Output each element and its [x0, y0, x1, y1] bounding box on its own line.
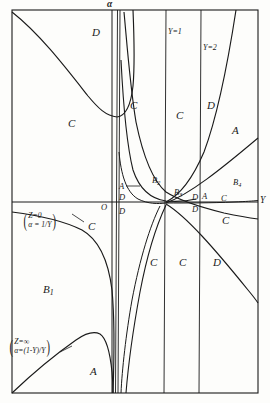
region-a-bottom: A	[90, 366, 97, 377]
region-a-right: A	[202, 192, 207, 201]
region-letter: A	[202, 191, 207, 201]
region-c-lower1: C	[150, 257, 157, 268]
region-letter: C	[150, 256, 157, 268]
region-c-lower2: C	[179, 257, 186, 268]
region-d-right-above: D	[192, 193, 198, 202]
region-letter: C	[130, 99, 137, 111]
region-subscript: 2	[157, 180, 160, 186]
vertical-axis-label: α	[107, 0, 112, 10]
region-letter: C	[179, 256, 186, 268]
region-letter: C	[68, 117, 75, 129]
region-letter: C	[221, 193, 227, 203]
region-letter: D	[207, 99, 215, 111]
phase-diagram-figure: α Y O Y=1 Y=2 ( Z=0 α = 1/Y ) ( Z=∞ α=(1…	[0, 0, 270, 403]
region-letter: D	[192, 192, 198, 202]
region-letter: A	[119, 181, 124, 191]
curve-z-zero-lower-left	[12, 212, 114, 393]
origin-label: O	[101, 203, 107, 212]
region-d-topleft: D	[92, 27, 100, 38]
region-subscript: 4	[238, 182, 241, 188]
region-d-left-below: D	[119, 207, 125, 216]
region-letter: B	[43, 283, 50, 295]
paren-close-icon: )	[53, 213, 56, 228]
region-b4: B4	[233, 178, 241, 188]
isocline-label-y1: Y=1	[168, 28, 182, 36]
paren-open-icon: (	[23, 213, 26, 228]
z-inf-line2: α=(1-Y)/Y	[14, 347, 45, 356]
region-letter: D	[192, 204, 198, 214]
region-c-left: C	[68, 118, 75, 129]
region-letter: A	[90, 365, 97, 377]
region-c-right-axis: C	[221, 194, 227, 203]
region-b1: B1	[43, 284, 54, 297]
region-letter: D	[213, 256, 221, 268]
region-d-lower: D	[213, 257, 221, 268]
curve-topleft-u	[12, 10, 134, 117]
region-d-right-below: D	[192, 205, 198, 214]
isocline-label-y2: Y=2	[203, 44, 217, 52]
z-zero-line2: α = 1/Y	[28, 221, 51, 230]
region-b2: B2	[152, 176, 160, 186]
leader-line-z-zero	[72, 214, 84, 222]
region-subscript: 3	[179, 192, 182, 198]
region-letter: C	[88, 220, 95, 232]
z-zero-annotation: ( Z=0 α = 1/Y )	[22, 212, 58, 229]
region-d-mid: D	[207, 100, 215, 111]
line-lower-right-descending	[166, 204, 258, 303]
region-c-mid1: C	[130, 100, 137, 111]
region-d-left-above: D	[119, 193, 125, 202]
region-c-mid2: C	[176, 110, 183, 121]
region-letter: C	[222, 214, 229, 226]
region-letter: A	[232, 124, 239, 136]
region-c-belowaxis-left: C	[88, 221, 95, 232]
region-c-belowaxis-right: C	[222, 215, 229, 226]
region-letter: D	[92, 26, 100, 38]
region-letter: D	[119, 206, 125, 216]
paren-open-icon-2: (	[9, 339, 12, 354]
region-letter: C	[176, 109, 183, 121]
region-subscript: 1	[50, 288, 54, 297]
curve-z-zero-upper	[124, 12, 258, 219]
paren-close-icon-2: )	[47, 339, 50, 354]
z-infinity-annotation: ( Z=∞ α=(1-Y)/Y )	[8, 338, 52, 355]
region-a-axis-left: A	[119, 182, 124, 191]
horizontal-axis-label: Y	[260, 196, 265, 206]
region-letter: D	[119, 192, 125, 202]
region-a-upperright: A	[232, 125, 239, 136]
region-b3: B3	[174, 188, 182, 198]
